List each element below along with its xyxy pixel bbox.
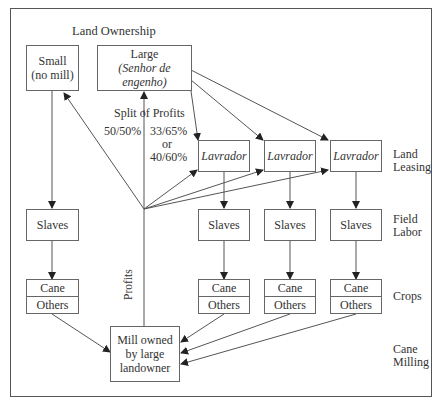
large-owner-label: Large bbox=[131, 47, 159, 61]
mill-line-1: Mill owned bbox=[117, 333, 173, 347]
mill-line-2: by large bbox=[126, 347, 165, 361]
large-owner-sublabel: (Senhor de engenho) bbox=[98, 61, 191, 89]
crop-cane: Cane bbox=[265, 280, 315, 297]
lavrador-box-2: Lavrador bbox=[264, 140, 316, 172]
small-owner-box: Small (no mill) bbox=[26, 45, 79, 91]
slaves-box-2: Slaves bbox=[264, 209, 316, 241]
small-owner-label: Small bbox=[38, 54, 66, 68]
large-owner-box: Large (Senhor de engenho) bbox=[97, 45, 192, 91]
row-label-land-leasing: Land Leasing bbox=[393, 148, 431, 174]
crop-cane: Cane bbox=[331, 280, 381, 297]
profits-label: Profits bbox=[122, 269, 135, 300]
crop-others: Others bbox=[199, 297, 249, 313]
crop-others: Others bbox=[265, 297, 315, 313]
land-ownership-title: Land Ownership bbox=[72, 25, 156, 38]
lavrador-box-1: Lavrador bbox=[198, 140, 250, 172]
crops-box-small: Cane Others bbox=[26, 279, 79, 314]
mill-line-3: landowner bbox=[120, 361, 171, 375]
row-label-field-labor: Field Labor bbox=[393, 213, 422, 239]
split-small-ratio: 50/50% bbox=[104, 125, 141, 138]
crops-box-2: Cane Others bbox=[264, 279, 316, 314]
split-large-ratio-2: 40/60% bbox=[150, 151, 187, 164]
lavrador-box-3: Lavrador bbox=[330, 140, 382, 172]
crop-others: Others bbox=[331, 297, 381, 313]
crops-box-1: Cane Others bbox=[198, 279, 250, 314]
crop-cane: Cane bbox=[27, 280, 78, 297]
mill-box: Mill owned by large landowner bbox=[110, 326, 180, 382]
split-of-profits-title: Split of Profits bbox=[114, 107, 185, 120]
row-label-cane-milling: Cane Milling bbox=[393, 343, 429, 369]
slaves-box-small: Slaves bbox=[26, 209, 79, 241]
slaves-box-1: Slaves bbox=[198, 209, 250, 241]
small-owner-sublabel: (no mill) bbox=[31, 68, 73, 82]
crop-cane: Cane bbox=[199, 280, 249, 297]
crop-others: Others bbox=[27, 297, 78, 313]
row-label-crops: Crops bbox=[393, 290, 422, 303]
crops-box-3: Cane Others bbox=[330, 279, 382, 314]
slaves-box-3: Slaves bbox=[330, 209, 382, 241]
